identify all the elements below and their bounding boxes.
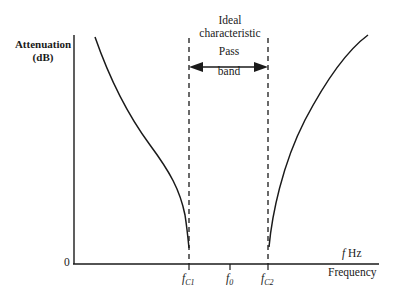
lower-stopband-curve [95,37,189,248]
y-axis-label: Attenuation (dB) [14,38,72,64]
origin-label: 0 [64,256,70,269]
ideal-characteristic-label: Ideal characteristic [190,14,270,40]
pass-band-label: Pass band [200,53,258,79]
tick-fc2-sub: C2 [264,278,273,287]
upper-stopband-curve [269,35,368,247]
pass-band-line2: band [200,65,258,78]
tick-label-f0: f0 [226,272,233,289]
ideal-label-line2: characteristic [190,27,270,40]
y-axis-label-line2: (dB) [14,51,72,64]
tick-fc1-sub: C1 [185,278,194,287]
tick-label-fc2: fC2 [261,272,274,289]
y-axis-label-line1: Attenuation [14,38,72,51]
unit-hz: Hz [345,247,361,259]
ideal-label-line1: Ideal [190,14,270,27]
tick-f0-sub: 0 [229,278,233,287]
x-axis-label: Frequency [328,266,377,279]
pass-band-line1: Pass [200,45,258,58]
x-axis-unit-label: f Hz [342,247,362,260]
tick-label-fc1: fC1 [182,272,195,289]
